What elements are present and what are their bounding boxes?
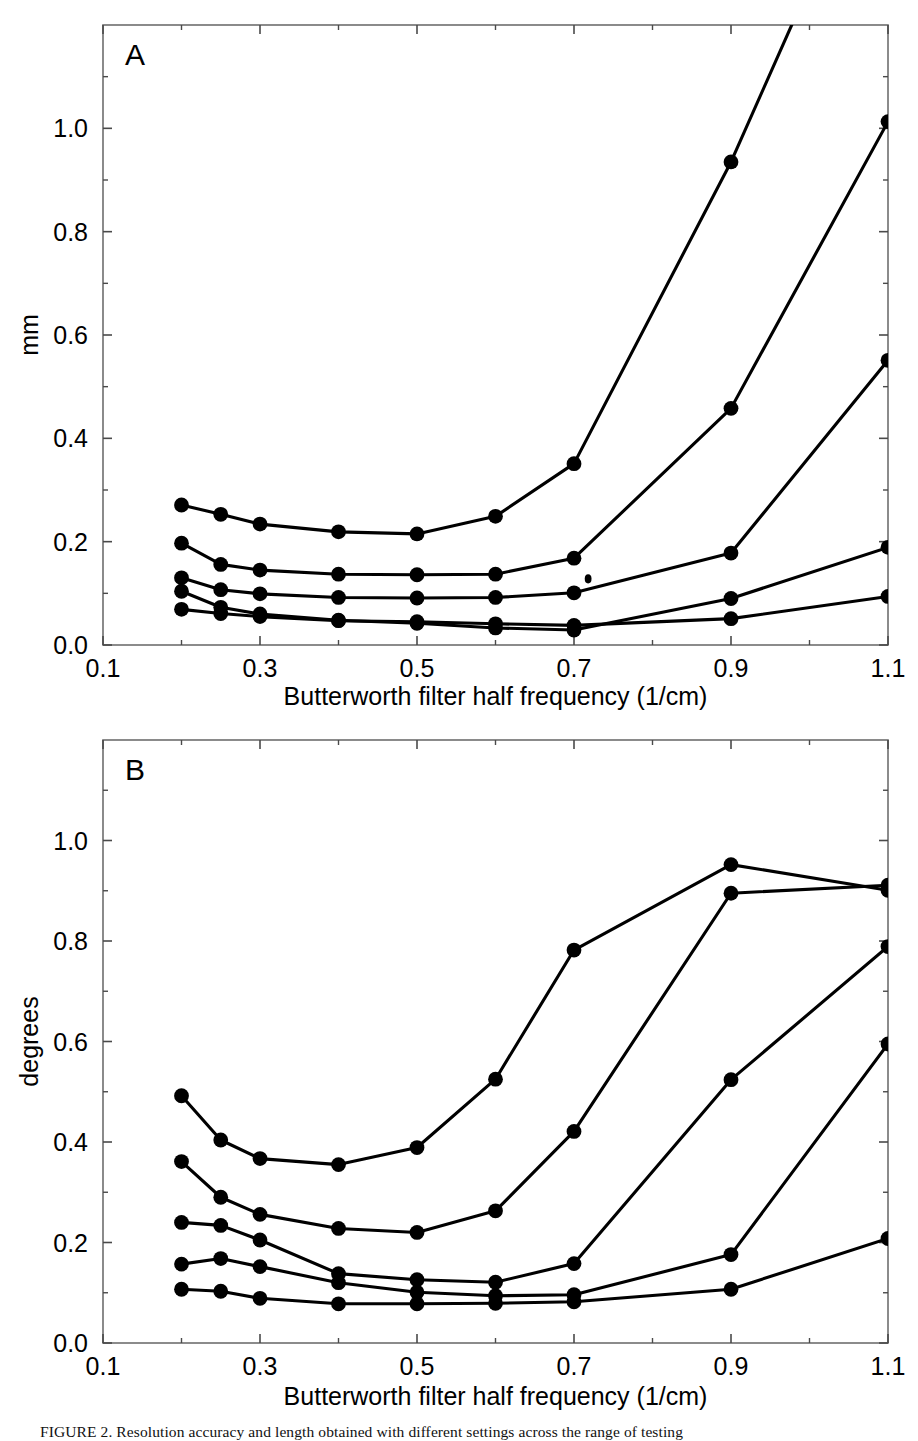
data-point-marker (488, 567, 503, 582)
x-tick-label: 0.1 (86, 654, 121, 682)
panel-label: B (125, 753, 145, 786)
x-tick-label: 0.7 (557, 1352, 592, 1380)
y-axis-label: mm (15, 314, 43, 356)
data-point-marker (213, 1190, 228, 1205)
data-point-marker (410, 591, 425, 606)
data-point-marker (331, 1221, 346, 1236)
y-tick-label: 0.2 (53, 528, 88, 556)
series-line (182, 0, 889, 534)
data-point-marker (174, 536, 189, 551)
data-point-marker (724, 1247, 739, 1262)
data-point-marker (213, 507, 228, 522)
x-axis-label: Butterworth filter half frequency (1/cm) (284, 682, 708, 710)
data-point-marker (174, 1088, 189, 1103)
data-point-marker (331, 590, 346, 605)
series-line (182, 865, 889, 1165)
data-point-marker (410, 1225, 425, 1240)
data-point-marker (881, 353, 896, 368)
data-point-marker (331, 613, 346, 628)
data-point-marker (410, 614, 425, 629)
data-point-marker (410, 567, 425, 582)
series-line (182, 947, 889, 1283)
y-tick-label: 0.4 (53, 424, 88, 452)
data-point-marker (881, 540, 896, 555)
x-tick-label: 0.7 (557, 654, 592, 682)
x-tick-label: 0.1 (86, 1352, 121, 1380)
data-point-marker (724, 1282, 739, 1297)
data-point-marker (488, 1203, 503, 1218)
data-point-marker (724, 546, 739, 561)
data-point-marker (213, 1133, 228, 1148)
series-group (174, 0, 895, 637)
data-point-marker (488, 509, 503, 524)
data-point-marker (567, 456, 582, 471)
x-tick-label: 0.3 (243, 654, 278, 682)
y-axis-label: degrees (15, 996, 43, 1086)
data-point-marker (174, 498, 189, 513)
y-tick-label: 0.4 (53, 1128, 88, 1156)
y-tick-label: 0.0 (53, 631, 88, 659)
data-point-marker (253, 1291, 268, 1306)
data-point-marker (567, 551, 582, 566)
data-point-marker (488, 1072, 503, 1087)
x-tick-label: 1.1 (871, 1352, 906, 1380)
data-point-marker (567, 1294, 582, 1309)
panel-a-svg: 0.10.30.50.70.91.10.00.20.40.60.81.0ABut… (0, 0, 918, 715)
panel-b-svg: 0.10.30.50.70.91.10.00.20.40.60.81.0BBut… (0, 715, 918, 1415)
data-point-marker (331, 567, 346, 582)
data-point-marker (253, 1233, 268, 1248)
data-point-marker (488, 1275, 503, 1290)
data-point-marker (488, 590, 503, 605)
data-point-marker (253, 1151, 268, 1166)
y-tick-label: 0.6 (53, 321, 88, 349)
series-group (174, 857, 895, 1311)
data-point-marker (881, 589, 896, 604)
data-point-marker (213, 606, 228, 621)
y-tick-label: 1.0 (53, 827, 88, 855)
data-point-marker (724, 886, 739, 901)
data-point-marker (881, 878, 896, 893)
data-point-marker (331, 1157, 346, 1172)
y-tick-label: 0.8 (53, 927, 88, 955)
data-point-marker (724, 401, 739, 416)
data-point-marker (881, 1231, 896, 1246)
data-point-marker (213, 1218, 228, 1233)
data-point-marker (881, 939, 896, 954)
data-point-marker (567, 618, 582, 633)
y-tick-label: 0.8 (53, 218, 88, 246)
data-point-marker (174, 1154, 189, 1169)
x-tick-label: 0.5 (400, 654, 435, 682)
y-tick-label: 0.2 (53, 1229, 88, 1257)
data-point-marker (567, 1256, 582, 1271)
data-point-marker (488, 616, 503, 631)
data-point-marker (724, 591, 739, 606)
data-point-marker (724, 857, 739, 872)
data-point-marker (488, 1296, 503, 1311)
data-point-marker (410, 1140, 425, 1155)
data-point-marker (253, 563, 268, 578)
y-tick-label: 0.6 (53, 1028, 88, 1056)
chart-panel-b: 0.10.30.50.70.91.10.00.20.40.60.81.0BBut… (0, 715, 918, 1415)
data-point-marker (331, 524, 346, 539)
data-point-marker (567, 585, 582, 600)
data-point-marker (724, 1072, 739, 1087)
x-tick-label: 1.1 (871, 654, 906, 682)
figure-2: 0.10.30.50.70.91.10.00.20.40.60.81.0ABut… (0, 0, 918, 1441)
data-point-marker (213, 1251, 228, 1266)
data-point-marker (174, 570, 189, 585)
data-point-marker (253, 586, 268, 601)
series-line (182, 360, 889, 598)
x-tick-label: 0.9 (714, 654, 749, 682)
data-point-marker (174, 1257, 189, 1272)
data-point-marker (410, 527, 425, 542)
data-point-marker (881, 114, 896, 129)
chart-panel-a: 0.10.30.50.70.91.10.00.20.40.60.81.0ABut… (0, 0, 918, 715)
x-axis-label: Butterworth filter half frequency (1/cm) (284, 1382, 708, 1410)
data-point-marker (253, 517, 268, 532)
panel-label: A (125, 38, 145, 71)
data-point-marker (567, 943, 582, 958)
x-tick-label: 0.3 (243, 1352, 278, 1380)
data-point-marker (724, 611, 739, 626)
x-tick-label: 0.9 (714, 1352, 749, 1380)
data-point-marker (213, 557, 228, 572)
